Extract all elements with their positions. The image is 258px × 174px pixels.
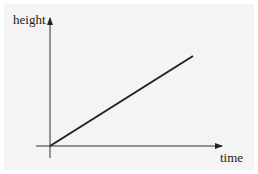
x-axis-label: time bbox=[220, 150, 243, 165]
line-chart: height time bbox=[0, 0, 258, 174]
y-axis-label: height bbox=[13, 12, 46, 27]
data-line bbox=[50, 56, 193, 146]
